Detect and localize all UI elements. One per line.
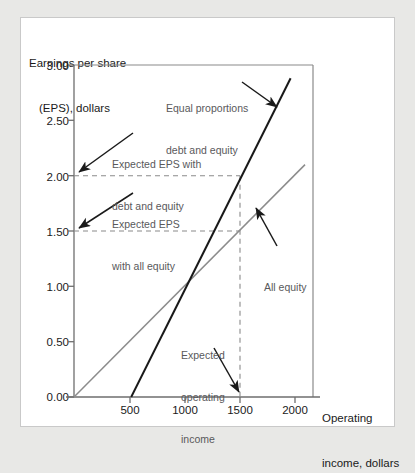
arrow-all-equity	[256, 208, 277, 246]
annotation-all-equity-line1: All equity	[264, 280, 307, 294]
annotation-expected-eps-all-line2: with all equity	[112, 259, 180, 273]
x-axis-title-line2: income, dollars	[322, 456, 399, 471]
annotation-expected-oi-line2: operating	[181, 390, 225, 404]
annotation-expected-eps-all-line1: Expected EPS	[112, 217, 180, 231]
annotation-expected-oi-line3: income	[181, 432, 225, 446]
annotation-expected-eps-all-equity: Expected EPS with all equity	[112, 189, 180, 301]
annotation-expected-oi-line1: Expected	[181, 348, 225, 362]
annotation-all-equity: All equity	[264, 252, 307, 322]
annotation-equal-proportions-line1: Equal proportions	[166, 101, 248, 115]
annotation-expected-eps-debt-line1: Expected EPS with	[112, 157, 201, 171]
annotation-expected-operating-income: Expected operating income	[181, 320, 225, 473]
y-axis-ticks	[68, 65, 74, 397]
